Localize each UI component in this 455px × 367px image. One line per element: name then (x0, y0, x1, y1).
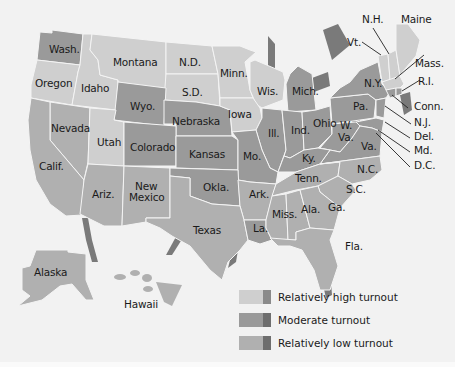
legend-swatch-low (239, 336, 271, 350)
label-ala: Ala. (301, 203, 320, 215)
label-mo: Mo. (243, 150, 261, 162)
label-wis: Wis. (257, 85, 278, 97)
label-ariz: Ariz. (92, 188, 114, 200)
label-ill: Ill. (268, 127, 279, 139)
label-ny: N.Y. (364, 77, 382, 89)
label-wva-1: W. (340, 119, 352, 131)
label-nevada: Nevada (51, 122, 90, 134)
label-sc: S.C. (346, 183, 366, 195)
label-miss: Miss. (272, 208, 297, 220)
legend: Relatively high turnout Moderate turnout… (239, 286, 398, 355)
label-vt: Vt. (347, 36, 361, 48)
label-dc: D.C. (414, 159, 435, 171)
state-nj[interactable] (376, 98, 386, 118)
label-idaho: Idaho (81, 82, 109, 94)
label-ga: Ga. (328, 201, 345, 213)
label-del: Del. (414, 130, 434, 142)
label-mich: Mich. (292, 85, 319, 97)
legend-label-moderate: Moderate turnout (278, 314, 370, 326)
bottom-margin (0, 362, 455, 367)
label-ky: Ky. (302, 152, 316, 164)
label-nm-2: Mexico (129, 191, 164, 203)
label-conn: Conn. (414, 100, 443, 112)
legend-item-low: Relatively low turnout (239, 332, 398, 354)
label-maine: Maine (401, 13, 432, 25)
label-oregon: Oregon (35, 77, 72, 89)
label-iowa: Iowa (228, 108, 252, 120)
legend-swatch-high (239, 290, 271, 304)
label-hawaii: Hawaii (124, 298, 158, 310)
label-mass: Mass. (415, 57, 444, 69)
label-md: Md. (414, 144, 432, 156)
legend-swatch-moderate (239, 313, 271, 327)
label-minn: Minn. (220, 67, 248, 79)
label-tenn: Tenn. (294, 172, 322, 184)
label-montana: Montana (113, 56, 157, 68)
legend-label-low: Relatively low turnout (278, 337, 393, 349)
label-nj: N.J. (414, 116, 431, 128)
legend-label-high: Relatively high turnout (278, 291, 398, 303)
label-colorado: Colorado (130, 141, 175, 153)
state-alaska[interactable] (18, 250, 94, 306)
label-ohio: Ohio (313, 117, 336, 129)
label-sd: S.D. (182, 86, 203, 98)
label-nd: N.D. (179, 56, 201, 68)
label-nh: N.H. (362, 13, 383, 25)
state-ri[interactable] (396, 88, 402, 96)
label-alaska: Alaska (34, 266, 67, 278)
label-nebraska: Nebraska (172, 115, 220, 127)
legend-item-moderate: Moderate turnout (239, 309, 398, 331)
label-ark: Ark. (249, 188, 269, 200)
label-ind: Ind. (291, 124, 310, 136)
label-utah: Utah (97, 136, 121, 148)
label-kansas: Kansas (189, 148, 225, 160)
label-wyo: Wyo. (130, 100, 155, 112)
label-okla: Okla. (203, 181, 229, 193)
label-calif: Calif. (39, 160, 64, 172)
label-pa: Pa. (353, 100, 368, 112)
label-ri: R.I. (418, 75, 434, 87)
label-nc: N.C. (357, 163, 378, 175)
label-wash: Wash. (49, 43, 80, 55)
label-texas: Texas (192, 224, 221, 236)
label-fla: Fla. (345, 240, 363, 252)
legend-item-high: Relatively high turnout (239, 286, 398, 308)
label-va: Va. (361, 140, 377, 152)
label-la: La. (253, 222, 268, 234)
label-wva-2: Va. (338, 131, 354, 143)
